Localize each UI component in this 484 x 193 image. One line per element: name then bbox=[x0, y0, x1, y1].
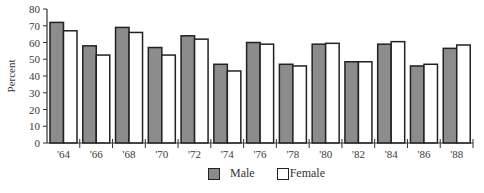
y-tick-label: 80 bbox=[29, 3, 41, 15]
legend-item-male: Male bbox=[208, 166, 255, 181]
bar-male bbox=[378, 44, 392, 143]
bar-male bbox=[279, 64, 293, 143]
bar-male bbox=[443, 48, 457, 143]
bar-male bbox=[116, 27, 129, 143]
bar-female bbox=[227, 71, 241, 143]
legend-male-label: Male bbox=[230, 166, 255, 181]
y-tick-label: 60 bbox=[29, 37, 41, 49]
bar-male bbox=[410, 66, 424, 143]
bar-male bbox=[83, 46, 97, 143]
x-tick-label: '80 bbox=[319, 148, 332, 160]
bar-male bbox=[312, 44, 326, 143]
x-tick-label: '84 bbox=[385, 148, 398, 160]
bar-female bbox=[326, 43, 340, 143]
female-swatch-icon bbox=[277, 168, 289, 180]
bar-female bbox=[293, 66, 307, 143]
y-axis-label: Percent bbox=[5, 60, 17, 93]
x-tick-label: '82 bbox=[352, 148, 365, 160]
y-tick-label: 20 bbox=[29, 104, 41, 116]
bar-female bbox=[64, 31, 78, 143]
x-tick-label: '72 bbox=[188, 148, 201, 160]
bar-female bbox=[260, 44, 274, 143]
bar-female bbox=[129, 32, 143, 143]
y-axis: 01020304050607080 bbox=[29, 3, 47, 149]
legend-item-female: Female bbox=[277, 166, 325, 181]
bar-female bbox=[457, 45, 471, 143]
x-tick-label: '74 bbox=[221, 148, 234, 160]
male-swatch-icon bbox=[208, 168, 220, 180]
x-tick-label: '64 bbox=[57, 148, 70, 160]
y-tick-label: 40 bbox=[29, 70, 41, 82]
bar-female bbox=[391, 42, 405, 143]
y-tick-label: 50 bbox=[29, 53, 41, 65]
bar-male bbox=[247, 43, 261, 144]
x-tick-label: '70 bbox=[155, 148, 168, 160]
x-tick-label: '78 bbox=[286, 148, 299, 160]
bar-male bbox=[214, 64, 228, 143]
bar-male bbox=[148, 48, 162, 143]
x-tick-label: '66 bbox=[90, 148, 103, 160]
bar-male bbox=[50, 22, 64, 143]
bar-female bbox=[96, 55, 110, 143]
y-tick-label: 30 bbox=[29, 87, 41, 99]
bar-male bbox=[181, 36, 195, 143]
bars bbox=[50, 22, 470, 143]
x-tick-label: '68 bbox=[123, 148, 136, 160]
y-tick-label: 70 bbox=[29, 20, 41, 32]
bar-female bbox=[162, 55, 176, 143]
x-tick-label: '86 bbox=[417, 148, 430, 160]
bar-female bbox=[424, 64, 438, 143]
legend: Male Female bbox=[208, 166, 347, 181]
bar-chart: 01020304050607080 '64'66'68'70'72'74'76'… bbox=[0, 0, 484, 160]
bar-female bbox=[195, 39, 209, 143]
y-tick-label: 0 bbox=[35, 137, 41, 149]
bar-female bbox=[358, 62, 372, 143]
y-tick-label: 10 bbox=[29, 120, 41, 132]
bar-male bbox=[345, 62, 359, 143]
legend-female-label: Female bbox=[290, 166, 325, 181]
x-tick-label: '88 bbox=[450, 148, 463, 160]
x-tick-label: '76 bbox=[254, 148, 267, 160]
